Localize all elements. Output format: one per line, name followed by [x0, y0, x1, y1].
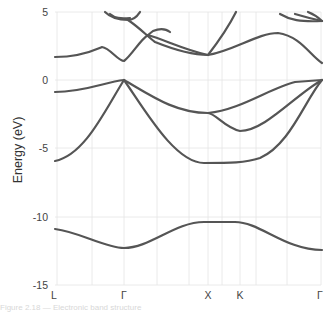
x-tick-L: L — [51, 289, 57, 301]
band-6b — [148, 29, 170, 35]
x-tick-gamma-1: Γ — [121, 289, 127, 301]
band-5 — [55, 33, 322, 63]
y-tick-5: 5 — [42, 6, 48, 18]
x-tick-K: K — [236, 289, 243, 301]
y-tick-neg15: -15 — [33, 279, 48, 291]
band-1 — [55, 222, 322, 250]
band-3 — [55, 80, 322, 131]
x-tick-gamma-2: Γ — [317, 289, 323, 301]
figure-caption: Figure 2.18 — Electronic band structure — [0, 303, 141, 312]
y-tick-labels: 5 0 -5 -10 -15 — [33, 6, 48, 291]
band-2 — [55, 80, 322, 163]
y-tick-neg5: -5 — [39, 142, 48, 154]
bands — [55, 12, 322, 250]
y-axis-title: Energy (eV) — [11, 117, 25, 184]
x-tick-labels: L Γ X K Γ — [51, 289, 323, 301]
y-tick-0: 0 — [42, 74, 48, 86]
band-6 — [128, 20, 208, 55]
x-tick-X: X — [204, 289, 211, 301]
y-tick-neg10: -10 — [33, 211, 48, 223]
band-structure-chart: 5 0 -5 -10 -15 Energy (eV) L Γ X K Γ — [0, 0, 335, 313]
